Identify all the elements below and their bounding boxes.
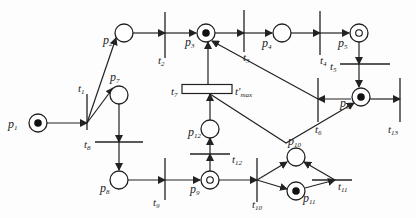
- place-circle: [201, 171, 219, 189]
- place-p7: [110, 86, 128, 104]
- petri-net-diagram: t1t2t3t4t5t6t7t'maxt8t9t10t11t12t13p1p2p…: [0, 0, 416, 218]
- token-icon: [292, 187, 300, 195]
- transition-t7: [182, 85, 232, 94]
- label-t8: t8: [84, 138, 91, 152]
- arc-t1-to-p7: [87, 88, 113, 123]
- petri-net-svg: t1t2t3t4t5t6t7t'maxt8t9t10t11t12t13p1p2p…: [0, 0, 416, 218]
- label-t9: t9: [153, 196, 160, 210]
- label-t13: t13: [388, 123, 399, 137]
- label-p7: p7: [109, 70, 120, 85]
- label-t7: t7: [171, 85, 178, 99]
- label-p6: p6: [339, 96, 350, 111]
- place-p10: [287, 148, 305, 166]
- token-icon: [202, 29, 210, 37]
- place-p2: [115, 24, 133, 42]
- arc-t10-to-p11: [257, 180, 287, 189]
- label-p2: p2: [102, 33, 113, 48]
- place-p8: [110, 171, 128, 189]
- label-p11: p11: [302, 191, 315, 206]
- place-p12: [201, 120, 219, 138]
- label-p12: p12: [187, 125, 202, 140]
- place-circle: [110, 86, 128, 104]
- place-p3: [197, 24, 215, 42]
- label-t1: t1: [78, 82, 85, 96]
- place-circle: [287, 148, 305, 166]
- place-circle: [273, 24, 291, 42]
- token-icon: [34, 119, 42, 127]
- label-p5: p5: [337, 36, 348, 51]
- label-p1: p1: [7, 117, 18, 132]
- label-t3: t3: [243, 51, 250, 65]
- label-p4: p4: [261, 36, 272, 51]
- place-p6: [352, 88, 370, 106]
- label-t11: t11: [338, 180, 348, 194]
- label-t2: t2: [158, 54, 165, 68]
- place-p1: [29, 114, 47, 132]
- label-t5: t5: [330, 60, 337, 74]
- place-p4: [273, 24, 291, 42]
- place-p5: [350, 24, 368, 42]
- arc-t11-to-p10: [304, 162, 335, 180]
- place-circle: [201, 120, 219, 138]
- place-p9: [201, 171, 219, 189]
- arc-t7-to-p6: [210, 94, 354, 143]
- label-t7-annotation: t'max: [235, 85, 253, 99]
- label-t4: t4: [320, 54, 327, 68]
- place-circle: [115, 24, 133, 42]
- place-circle: [110, 171, 128, 189]
- label-p3: p3: [184, 35, 195, 50]
- place-circle: [350, 24, 368, 42]
- arc-t10-to-p10: [257, 162, 287, 180]
- label-t12: t12: [232, 153, 243, 167]
- arc-p11-to-t11: [305, 180, 335, 188]
- label-p9: p9: [189, 182, 200, 197]
- token-icon: [357, 93, 365, 101]
- label-p8: p8: [99, 181, 110, 196]
- label-p10: p10: [287, 134, 302, 149]
- label-t6: t6: [315, 123, 322, 137]
